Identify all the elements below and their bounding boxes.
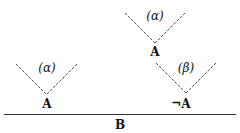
left-cone-node: A <box>42 98 51 110</box>
top-cone-label: (α) <box>146 10 163 22</box>
baseline-label: B <box>115 119 125 131</box>
top-cone-node: A <box>150 46 159 58</box>
right-cone-node: ¬A <box>171 98 190 110</box>
left-cone-label: (α) <box>38 62 55 74</box>
right-cone-label: (β) <box>178 62 194 74</box>
diagram-canvas: (α) A (α) A (β) ¬A B <box>0 0 240 133</box>
diagram-lines <box>0 0 240 133</box>
